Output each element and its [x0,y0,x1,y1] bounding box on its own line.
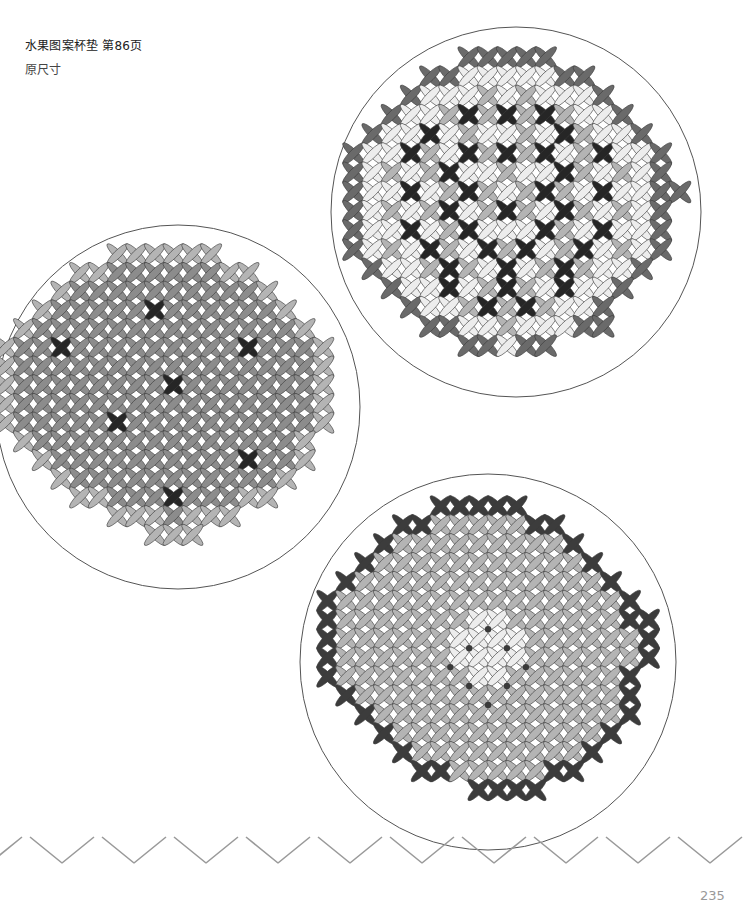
french-knot [466,645,472,651]
french-knot [523,664,529,670]
stitch-grid [314,493,661,803]
page-number: 235 [700,888,725,903]
french-knot [447,664,453,670]
french-knot [504,645,510,651]
french-knot [485,702,491,708]
french-knot [485,626,491,632]
zigzag-line [0,835,747,875]
french-knot [504,683,510,689]
zigzag-border [0,835,747,879]
french-knot [466,683,472,689]
